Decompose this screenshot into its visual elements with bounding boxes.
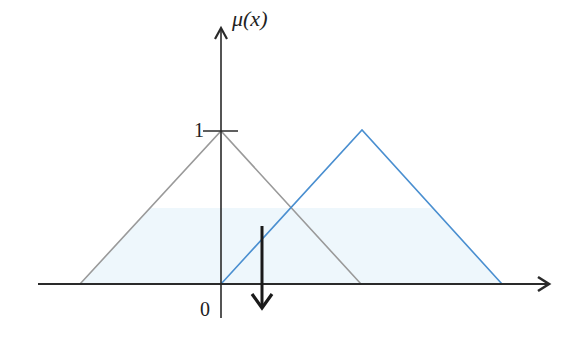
y-axis-label: μ(x) (232, 6, 267, 32)
membership-diagram (0, 0, 578, 339)
y-tick-label-one: 1 (194, 119, 204, 142)
shaded-region (60, 208, 520, 284)
origin-label: 0 (200, 298, 210, 321)
